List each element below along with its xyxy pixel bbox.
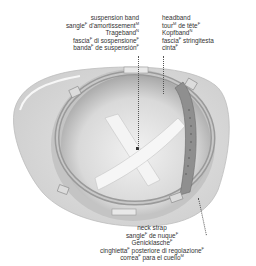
term-german: TragebandN [66,29,139,37]
term-spanish: bandaF de suspensiónF [66,44,139,52]
label-suspension-band: suspension band sangleF d'amortissementM… [66,14,139,52]
label-neck-strap: neck strap sangleF de nuqueF Genicklasch… [100,224,204,262]
term-english: neck strap [100,224,204,232]
leader-suspension-band [138,56,139,148]
leader-headband [163,56,164,94]
term-english: suspension band [66,14,139,22]
term-spanish: cintaF [162,44,214,52]
term-english: headband [162,14,214,22]
label-headband: headband tourM de têteF KopfbandN fascia… [162,14,214,52]
term-spanish: correaF para el cuelloM [100,254,204,262]
term-german: GenicklascheF [100,239,204,247]
term-german: KopfbandN [162,29,214,37]
